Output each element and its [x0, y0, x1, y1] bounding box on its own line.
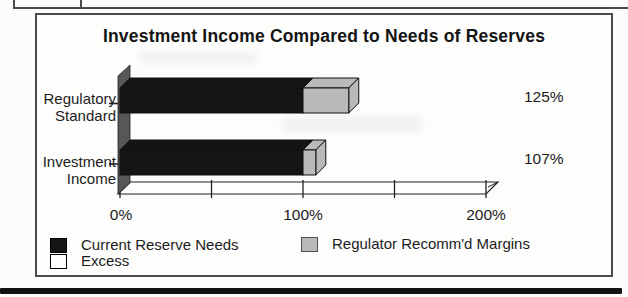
x-axis-tick-label-200: 200% — [466, 206, 506, 224]
legend-item-excess: Excess — [50, 253, 129, 269]
bar-segment-front — [303, 88, 349, 113]
x-axis-tick-label-0: 0% — [110, 206, 132, 224]
legend-swatch-black — [50, 238, 67, 253]
bar-segment-top — [120, 78, 313, 88]
bar-segment-front — [120, 150, 303, 175]
scanned-report-page: Investment Income Compared to Needs of R… — [0, 0, 628, 297]
x-axis-tick-label-100: 100% — [283, 206, 323, 224]
bar-segment-front — [120, 88, 303, 113]
legend-label: Regulator Recomm'd Margins — [332, 236, 530, 252]
legend-label: Current Reserve Needs — [81, 237, 239, 253]
page-bottom-rule — [0, 288, 622, 294]
legend-swatch-gray — [301, 237, 318, 252]
category-label-regulatory-standard: Regulatory Standard — [34, 90, 116, 124]
legend-swatch-white — [50, 254, 67, 269]
legend-item-regulator-recommd-margins: Regulator Recomm'd Margins — [301, 236, 530, 252]
legend-label: Excess — [81, 253, 129, 269]
bar-segment-top — [120, 140, 313, 150]
category-label-investment-income: Investment Income — [34, 153, 116, 187]
bar-segment-front — [303, 150, 316, 175]
data-label-regulatory-standard: 125% — [524, 88, 564, 106]
legend-item-current-reserve-needs: Current Reserve Needs — [50, 237, 239, 253]
data-label-investment-income: 107% — [524, 150, 564, 168]
plot-floor — [118, 182, 498, 194]
